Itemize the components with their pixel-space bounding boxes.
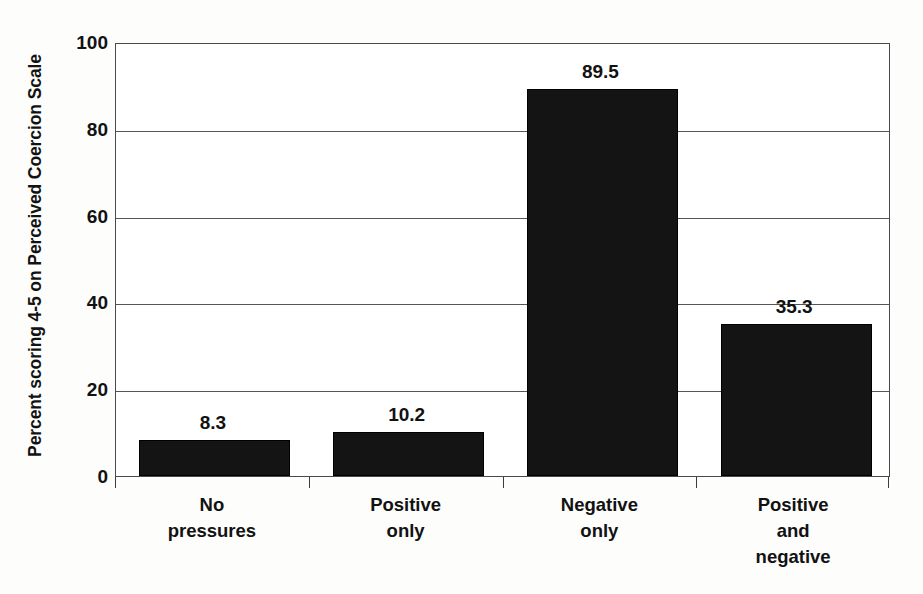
x-label-line: Positive [309,492,503,518]
x-label-line: negative [696,544,890,570]
x-label-positive-only: Positive only [309,492,503,544]
bar-value-negative-only: 89.5 [504,61,698,83]
x-label-line: only [309,518,503,544]
bar-chart-figure: Percent scoring 4-5 on Perceived Coercio… [0,0,923,594]
x-label-line: No [115,492,309,518]
x-tick-4 [888,477,889,488]
bar-positive-and-negative[interactable] [721,324,872,476]
x-tick-2 [503,477,504,488]
y-tick-label-0: 0 [56,466,108,488]
bar-value-positive-only: 10.2 [310,404,504,426]
bar-series: 8.3 10.2 89.5 35.3 [116,44,889,476]
x-label-positive-and-negative: Positive and negative [696,492,890,570]
x-axis-labels: No pressures Positive only Negative only… [115,492,890,592]
plot-area: 8.3 10.2 89.5 35.3 [115,43,890,477]
y-tick-label-40: 40 [56,292,108,314]
x-label-line: Negative [503,492,697,518]
y-tick-label-100: 100 [56,32,108,54]
bar-slot-positive-only: 10.2 [310,44,504,476]
x-label-line: pressures [115,518,309,544]
y-tick-label-20: 20 [56,379,108,401]
x-axis-ticks [115,477,890,489]
bar-positive-only[interactable] [333,432,484,476]
x-label-negative-only: Negative only [503,492,697,544]
bar-slot-positive-and-negative: 35.3 [697,44,891,476]
x-tick-3 [696,477,697,488]
x-label-line: and [696,518,890,544]
y-tick-label-60: 60 [56,206,108,228]
y-axis-title: Percent scoring 4-5 on Perceived Coercio… [25,26,46,486]
x-label-line: only [503,518,697,544]
bar-slot-no-pressures: 8.3 [116,44,310,476]
bar-no-pressures[interactable] [139,440,290,476]
x-label-no-pressures: No pressures [115,492,309,544]
bar-value-positive-and-negative: 35.3 [697,296,891,318]
y-tick-label-80: 80 [56,119,108,141]
y-axis-tick-labels: 100 80 60 40 20 0 [52,0,108,594]
x-label-line: Positive [696,492,890,518]
bar-slot-negative-only: 89.5 [504,44,698,476]
bar-negative-only[interactable] [527,89,678,476]
bar-value-no-pressures: 8.3 [116,412,310,434]
x-tick-1 [309,477,310,488]
x-tick-0 [115,477,116,488]
